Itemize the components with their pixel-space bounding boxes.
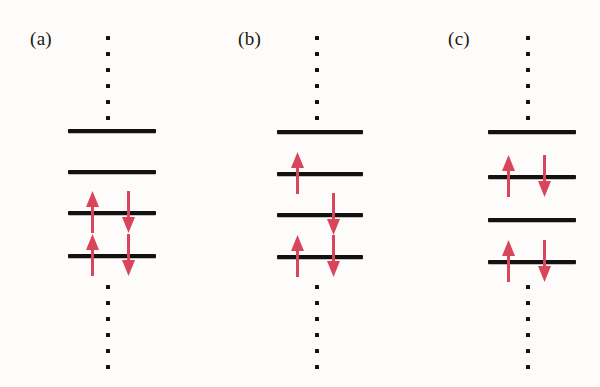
energy-level-c-3 xyxy=(488,218,576,222)
dot xyxy=(526,84,530,88)
panel-label-c: (c) xyxy=(448,28,470,50)
panel-label-b: (b) xyxy=(238,28,261,50)
energy-level-c-1 xyxy=(488,130,576,134)
dotted-continuation-c-below xyxy=(526,285,530,369)
dot xyxy=(315,317,319,321)
dot xyxy=(526,301,530,305)
spin-arrow-down-c-level2 xyxy=(536,155,553,197)
dot xyxy=(526,317,530,321)
dot xyxy=(315,68,319,72)
dot xyxy=(315,36,319,40)
dot xyxy=(315,100,319,104)
dot xyxy=(526,100,530,104)
dot xyxy=(315,333,319,337)
energy-level-b-1 xyxy=(277,130,363,134)
dotted-continuation-b-below xyxy=(315,285,319,369)
dot xyxy=(315,52,319,56)
dot xyxy=(526,365,530,369)
spin-arrow-up-c-level2 xyxy=(500,155,517,197)
energy-level-diagram: (a)(b)(c) xyxy=(0,0,600,387)
dot xyxy=(526,68,530,72)
dot xyxy=(315,84,319,88)
dot xyxy=(315,116,319,120)
dot xyxy=(315,365,319,369)
panel-c: (c) xyxy=(0,0,200,387)
dot xyxy=(526,116,530,120)
dot xyxy=(526,333,530,337)
spin-arrow-down-b-level3 xyxy=(325,193,342,235)
dot xyxy=(315,301,319,305)
dot xyxy=(315,349,319,353)
dot xyxy=(526,349,530,353)
dotted-continuation-c-above xyxy=(526,36,530,120)
spin-arrow-up-b-level2 xyxy=(289,152,306,194)
spin-arrow-down-b-level4 xyxy=(325,235,342,277)
spin-arrow-up-b-level4 xyxy=(289,235,306,277)
spin-arrow-down-c-level4 xyxy=(536,240,553,282)
spin-arrow-up-c-level4 xyxy=(500,240,517,282)
dot xyxy=(526,52,530,56)
dot xyxy=(526,36,530,40)
dot xyxy=(315,285,319,289)
dot xyxy=(526,285,530,289)
energy-level-b-3 xyxy=(277,213,363,217)
dotted-continuation-b-above xyxy=(315,36,319,120)
